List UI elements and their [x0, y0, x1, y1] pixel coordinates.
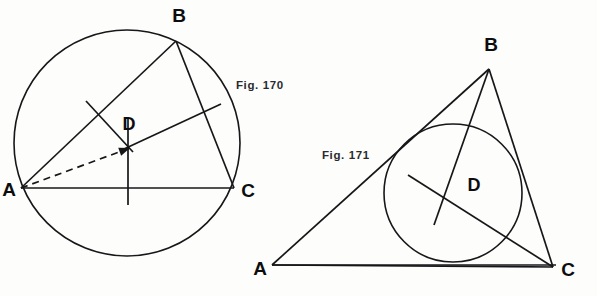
- canvas-background: [0, 0, 597, 296]
- fig171-vertex-label-a: A: [253, 258, 267, 279]
- fig171-caption: Fig. 171: [322, 149, 370, 161]
- geometry-figure-canvas: A B C D Fig. 170 A B C D Fig. 171: [0, 0, 597, 296]
- fig170-vertex-label-a: A: [2, 179, 16, 200]
- fig170-vertex-label-b: B: [172, 5, 186, 26]
- fig171-vertex-label-b: B: [484, 34, 498, 55]
- fig170-caption: Fig. 170: [236, 79, 284, 91]
- fig171-vertex-label-c: C: [561, 259, 575, 280]
- fig170-vertex-label-c: C: [241, 180, 255, 201]
- fig170-center-label-d: D: [123, 114, 136, 134]
- fig171-center-label-d: D: [468, 175, 481, 195]
